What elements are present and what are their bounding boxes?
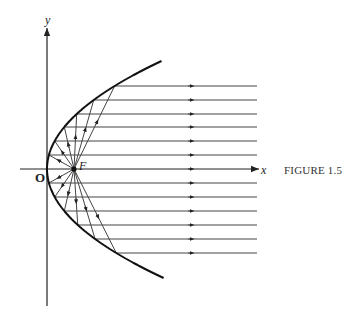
ray-arrow-icon <box>68 190 69 194</box>
ray-arrow-icon <box>95 122 97 126</box>
y-axis-label: y <box>45 13 50 28</box>
ray-arrow-icon <box>68 144 69 148</box>
focus-label: F <box>79 159 86 174</box>
ray-arrow-icon <box>58 176 61 178</box>
ray-arrow-icon <box>85 206 86 210</box>
x-axis-label: x <box>261 163 266 178</box>
ray-arrow-icon <box>84 129 85 133</box>
focus-point <box>71 166 76 171</box>
axes <box>20 28 259 306</box>
ray-arrow-icon <box>96 213 98 217</box>
figure-caption: FIGURE 1.5 <box>284 164 342 176</box>
ray-arrow-icon <box>58 160 61 162</box>
origin-label: O <box>35 170 45 186</box>
